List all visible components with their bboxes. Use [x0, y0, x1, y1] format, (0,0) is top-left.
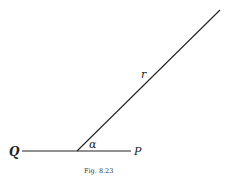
label-p: P: [133, 145, 142, 158]
figure-caption: Fig. 8.23: [84, 167, 113, 175]
figure-diagram: Q P r α Fig. 8.23: [0, 0, 232, 188]
line-r: [77, 10, 220, 151]
label-r: r: [141, 68, 147, 81]
label-q: Q: [9, 145, 20, 159]
label-alpha: α: [89, 138, 97, 151]
